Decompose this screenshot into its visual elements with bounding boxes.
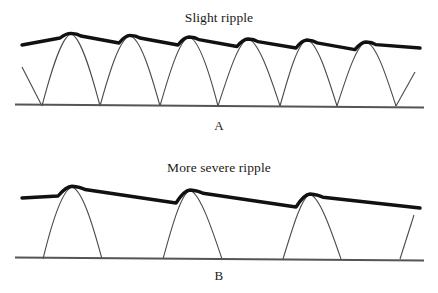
pulse-arc [160,37,218,106]
pulse-arc [42,34,100,106]
pulse-arc [280,40,337,106]
panel-a-group [15,33,424,107]
pulse-arc [283,194,341,259]
pulse-arc [100,36,160,106]
waveform-canvas [0,0,438,293]
pulse-stub-left [22,67,42,106]
panel-b-baseline [15,258,424,261]
panel-b-title: More severe ripple [0,160,438,176]
pulse-arc [163,190,222,259]
ripple-comparison-figure: Slight ripple A More severe ripple B [0,0,438,293]
pulse-arc [218,39,280,106]
panel-a-title: Slight ripple [0,10,438,26]
panel-a-baseline [15,105,424,108]
panel-b-group [15,186,424,260]
pulse-stub-right [400,215,414,259]
panel-b-caption: B [0,268,438,284]
pulse-arc [337,42,396,106]
panel-a-caption: A [0,118,438,134]
pulse-stub-right [396,72,415,106]
